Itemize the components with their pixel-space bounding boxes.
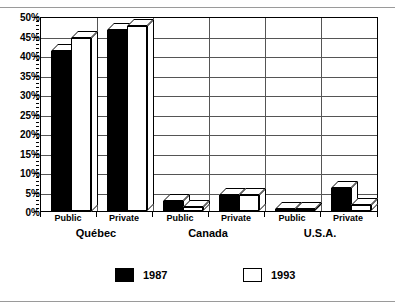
- bar-face: [51, 51, 71, 211]
- top-divider: [0, 7, 395, 8]
- bar-face: [295, 209, 315, 211]
- x-label-private-usa: Private: [313, 214, 383, 223]
- bar-1993: [183, 207, 203, 211]
- bar-face: [71, 38, 91, 212]
- bar-group-usa-public: [265, 18, 321, 211]
- bar-1993: [351, 205, 371, 211]
- x-group-label-canada: Canada: [148, 228, 268, 239]
- legend-item-1993: 1993: [243, 268, 295, 282]
- bar-1993: [127, 26, 147, 211]
- bar-1987: [107, 30, 127, 211]
- bar-1987: [331, 188, 351, 211]
- bar-1987: [51, 51, 71, 211]
- bar-face: [127, 26, 147, 211]
- bar-group-quebec-private: [97, 18, 153, 211]
- legend-item-1987: 1987: [115, 268, 167, 282]
- bar-face: [275, 209, 295, 211]
- bar-face: [331, 188, 351, 211]
- bar-group-usa-private: [321, 18, 377, 211]
- bottom-divider: [0, 301, 395, 302]
- legend-swatch-1993: [243, 268, 262, 282]
- bar-face: [351, 205, 371, 211]
- bar-face: [107, 30, 127, 211]
- bar-1987: [219, 195, 239, 211]
- bar-1987: [163, 201, 183, 211]
- bar-face: [163, 201, 183, 211]
- bar-face: [183, 207, 203, 211]
- bar-face: [239, 195, 259, 211]
- bar-group-canada-public: [153, 18, 209, 211]
- chart-legend: 1987 1993: [0, 268, 395, 294]
- legend-swatch-1987: [115, 268, 134, 282]
- cropped-header-text: [0, 0, 395, 7]
- legend-label-1987: 1987: [143, 270, 167, 281]
- bar-1993: [295, 209, 315, 211]
- bar-1993: [239, 195, 259, 211]
- bar-1987: [275, 209, 295, 211]
- chart-figure: 50% 45% 40% 35% 30% 25% 20% 15% 10% 5% 0…: [0, 0, 395, 308]
- bar-group-quebec-public: [41, 18, 97, 211]
- bar-face: [219, 195, 239, 211]
- bar-group-canada-private: [209, 18, 265, 211]
- bar-1993: [71, 38, 91, 212]
- legend-label-1993: 1993: [271, 270, 295, 281]
- x-group-label-usa: U.S.A.: [260, 228, 380, 239]
- plot-area: [40, 17, 378, 212]
- x-group-label-quebec: Québec: [36, 228, 156, 239]
